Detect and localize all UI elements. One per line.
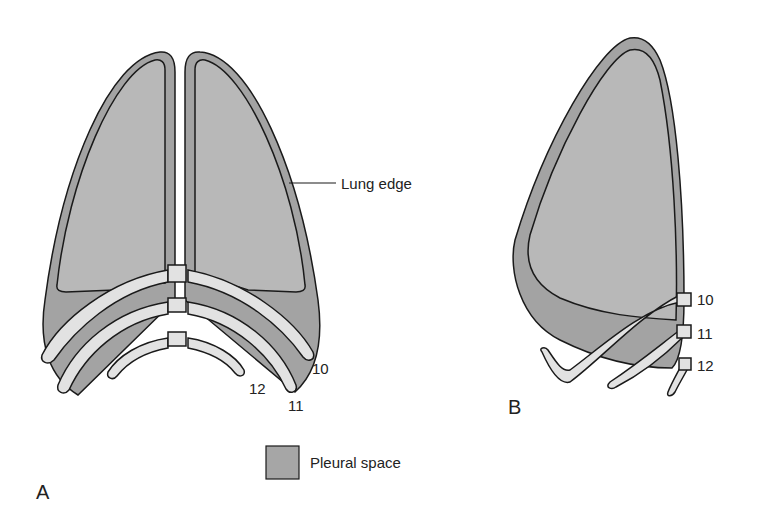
label-rib-11-a: 11 xyxy=(288,398,304,413)
vertebra-12-a xyxy=(168,332,186,346)
label-rib-10-b: 10 xyxy=(697,292,714,307)
label-lung-edge: Lung edge xyxy=(341,176,412,191)
label-rib-11-b: 11 xyxy=(697,326,713,341)
rib-12-right-a xyxy=(188,338,244,376)
figure: Lung edge 10 11 12 10 11 12 Pleural spac… xyxy=(0,0,759,521)
diagram-canvas xyxy=(0,0,759,521)
vertebra-10-a xyxy=(168,265,186,282)
panel-label-a: A xyxy=(36,482,49,502)
vertebra-12-b xyxy=(679,358,691,370)
vertebra-11-b xyxy=(677,325,691,338)
vertebra-10-b xyxy=(677,293,691,306)
label-rib-12-a: 12 xyxy=(249,381,266,396)
lung-b xyxy=(528,49,676,320)
panel-label-b: B xyxy=(508,397,521,417)
label-rib-10-a: 10 xyxy=(312,361,329,376)
label-rib-12-b: 12 xyxy=(697,358,714,373)
vertebra-11-a xyxy=(168,298,186,312)
legend-swatch-pleural-space xyxy=(266,446,299,479)
legend-label: Pleural space xyxy=(310,455,401,470)
